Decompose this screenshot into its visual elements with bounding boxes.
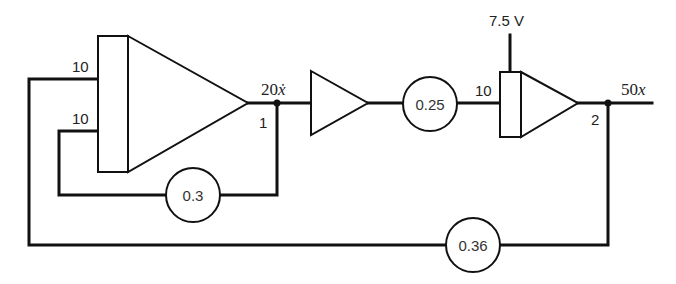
integrator-1 bbox=[98, 36, 248, 172]
potentiometer-0-3: 0.3 bbox=[166, 168, 220, 222]
integrator-1-amplifier-triangle bbox=[128, 36, 248, 172]
integrator-2-amplifier-triangle bbox=[521, 72, 578, 137]
pot-value: 0.25 bbox=[415, 96, 444, 113]
node-1-label: 1 bbox=[259, 114, 267, 131]
analog-computer-diagram: 0.25 0.3 0.36 10 10 1 20ẋ 10 7.5 V 2 50x bbox=[0, 0, 676, 284]
junction-node-2 bbox=[605, 100, 612, 107]
signal-50x-label: 50x bbox=[621, 80, 646, 99]
inverter-amplifier-triangle bbox=[311, 71, 368, 135]
initial-condition-label: 7.5 V bbox=[489, 12, 524, 29]
wire-inner-feedback bbox=[220, 103, 277, 195]
signal-20xdot-label: 20ẋ bbox=[261, 80, 286, 99]
node-2-label: 2 bbox=[591, 111, 599, 128]
int1-gain-label-top: 10 bbox=[72, 58, 89, 75]
integrator-1-input-box bbox=[98, 36, 128, 172]
int1-gain-label-bottom: 10 bbox=[72, 110, 89, 127]
junction-node-1 bbox=[274, 100, 281, 107]
integrator-2 bbox=[500, 72, 578, 137]
pot-value: 0.3 bbox=[183, 187, 204, 204]
integrator-2-input-box bbox=[500, 72, 521, 137]
potentiometer-0-25: 0.25 bbox=[403, 77, 457, 131]
pot-value: 0.36 bbox=[458, 237, 487, 254]
potentiometer-0-36: 0.36 bbox=[446, 218, 500, 272]
int2-gain-label: 10 bbox=[475, 82, 492, 99]
